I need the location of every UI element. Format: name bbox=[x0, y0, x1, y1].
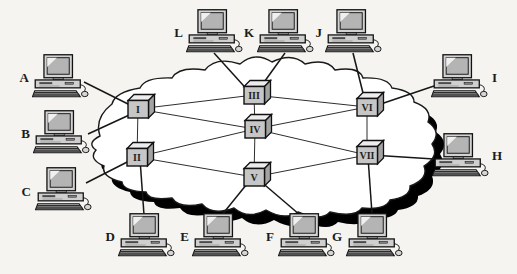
desktop-computer-icon bbox=[32, 55, 88, 97]
router-I: I bbox=[128, 95, 155, 119]
router-II: II bbox=[127, 143, 154, 167]
computer-D: D bbox=[106, 214, 174, 256]
router-VII: VII bbox=[357, 141, 384, 165]
computer-label: J bbox=[316, 25, 323, 40]
router-label: VII bbox=[359, 150, 374, 161]
computer-label: L bbox=[174, 25, 183, 40]
router-label: VI bbox=[361, 102, 372, 113]
desktop-computer-icon bbox=[192, 214, 248, 256]
computer-label: I bbox=[492, 70, 497, 85]
desktop-computer-icon bbox=[118, 214, 174, 256]
computer-label: E bbox=[180, 229, 189, 244]
computer-label: G bbox=[332, 229, 342, 244]
computer-label: F bbox=[266, 229, 274, 244]
computer-I: I bbox=[431, 55, 497, 97]
computer-L: L bbox=[174, 10, 242, 52]
router-VI: VI bbox=[357, 93, 384, 117]
diagram-canvas: I II III IV V VI VII A B C D E bbox=[0, 0, 517, 274]
network-diagram: I II III IV V VI VII A B C D E bbox=[0, 0, 517, 274]
desktop-computer-icon bbox=[186, 10, 242, 52]
router-label: III bbox=[248, 90, 260, 101]
router-label: IV bbox=[249, 124, 261, 135]
computer-label: H bbox=[492, 148, 502, 163]
computer-J: J bbox=[316, 10, 382, 52]
computer-A: A bbox=[20, 55, 88, 97]
computer-label: B bbox=[21, 126, 30, 141]
desktop-computer-icon bbox=[257, 10, 313, 52]
router-label: I bbox=[136, 104, 140, 115]
computer-B: B bbox=[21, 111, 89, 153]
desktop-computer-icon bbox=[33, 111, 89, 153]
computer-label: K bbox=[244, 25, 255, 40]
router-V: V bbox=[244, 163, 271, 187]
router-label: V bbox=[250, 172, 258, 183]
computer-label: A bbox=[20, 70, 30, 85]
router-label: II bbox=[133, 152, 141, 163]
computer-C: C bbox=[22, 168, 91, 210]
desktop-computer-icon bbox=[431, 55, 487, 97]
computer-K: K bbox=[244, 10, 313, 52]
desktop-computer-icon bbox=[325, 10, 381, 52]
computer-label: D bbox=[106, 229, 115, 244]
router-III: III bbox=[244, 81, 271, 105]
computer-label: C bbox=[22, 184, 31, 199]
desktop-computer-icon bbox=[35, 168, 91, 210]
router-IV: IV bbox=[245, 115, 272, 139]
router-box-icon bbox=[128, 95, 155, 119]
computer-E: E bbox=[180, 214, 248, 256]
